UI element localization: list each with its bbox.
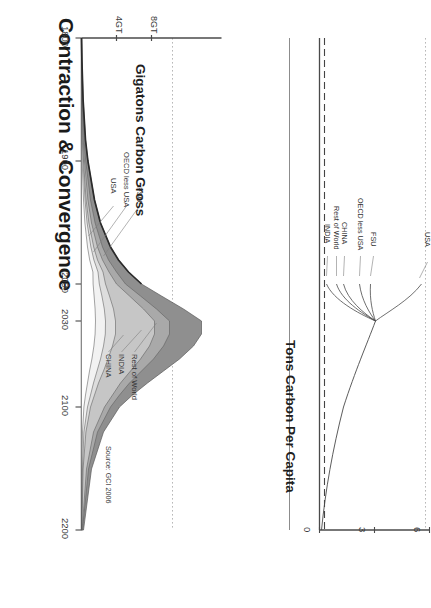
percapita-tick-0: 0 [301, 527, 312, 532]
curve-rest-of-world [336, 284, 375, 321]
gigatons-label-india: INDIA [116, 354, 125, 374]
percapita-label-fsu: FSU [368, 232, 377, 246]
percapita-tick-6: 6 [411, 527, 422, 532]
year-tick-2000: 2000 [59, 272, 70, 293]
percapita-chart [319, 38, 429, 533]
curve-converged [321, 321, 375, 530]
year-tick-2200: 2200 [59, 518, 70, 539]
gigatons-label-usa: USA [108, 178, 117, 194]
percapita-label-india: INDIA [322, 224, 331, 243]
gigatons-label-china: CHINA [103, 354, 112, 378]
curve-usa [375, 284, 421, 321]
year-tick-2030: 2030 [59, 309, 70, 330]
year-gridlines [172, 38, 425, 530]
year-tick-1800: 1800 [59, 26, 70, 47]
percapita-label-oecd-less-usa: OECD less USA [355, 198, 364, 250]
gigatons-label-oecd-less-usa: OECD less USA [121, 152, 130, 207]
percapita-label-usa: USA [422, 232, 431, 247]
percapita-leader-lines [326, 256, 427, 278]
gigatons-label-fsu: FSU [134, 187, 143, 202]
gigatons-tick-4gt: 4GT [113, 16, 123, 34]
percapita-tick-3: 3 [356, 527, 367, 532]
percapita-label-rest-of-world: Rest of World [331, 206, 340, 249]
percapita-axis-label: Tons Carbon Per Capita [282, 340, 297, 493]
gigatons-label-rest-of-world: Rest of World [129, 354, 138, 400]
gigatons-chart [75, 35, 221, 530]
percapita-curves [321, 284, 421, 530]
curve-fsu [370, 284, 375, 321]
gigatons-tick-8gt: 8GT [148, 16, 158, 34]
year-tick-2100: 2100 [59, 395, 70, 416]
year-tick-1900: 1900 [59, 149, 70, 170]
source-note: Source: GCI 2006 [103, 446, 112, 504]
